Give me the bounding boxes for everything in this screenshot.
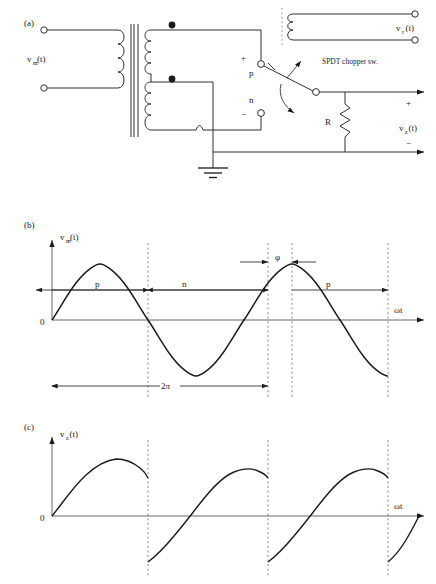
primary-source-label-suffix: (t) (37, 54, 46, 64)
reference-coil-label-sub: r (402, 29, 404, 35)
panel-b-waveform: (b) v m (t) ωt 0 p n p φ 2π (24, 220, 424, 398)
panel-b-phase-label: φ (275, 252, 280, 262)
reference-coil-winding (288, 14, 293, 40)
panel-b-tag: (b) (24, 220, 35, 230)
polarity-dot-upper (169, 22, 176, 29)
primary-source-label-base: v (27, 54, 32, 64)
panel-c-y-label-base: v (60, 429, 65, 439)
figure-canvas: (a) v m (t) (0, 0, 436, 584)
minus-sign-n: − (241, 109, 246, 119)
panel-b-y-label-suffix: (t) (70, 232, 79, 242)
primary-terminal-bottom (41, 85, 47, 91)
plus-sign-p: + (241, 53, 246, 63)
panel-c-segment-1 (52, 459, 148, 516)
primary-terminal-top (41, 27, 47, 33)
ground-icon (198, 168, 228, 178)
output-label-base: v (399, 123, 404, 133)
transformer-core (131, 24, 138, 137)
panel-c-tag: (c) (24, 422, 34, 432)
output-minus-sign: − (406, 138, 411, 148)
panel-b-x-label: ωt (394, 305, 403, 315)
secondary-upper-winding (145, 30, 151, 74)
panel-a-circuit: (a) v m (t) (24, 8, 424, 178)
panel-c-segment-3 (268, 469, 388, 562)
switch-pivot-node (313, 89, 320, 96)
panel-c-segment-2 (148, 469, 268, 562)
switch-motion-arrow-up (287, 61, 301, 78)
resistor-label: R (325, 117, 331, 127)
panel-b-segment-label-p1: p (95, 279, 100, 289)
reference-coil-label-base: v (396, 23, 401, 33)
reference-coil-label-suffix: (t) (406, 23, 415, 33)
panel-c-waveform: (c) v z (t) ωt 0 (24, 422, 424, 578)
secondary-centre-tap-wire (151, 82, 213, 137)
panel-b-origin-label: 0 (40, 317, 45, 327)
output-label-suffix: (t) (409, 123, 418, 133)
panel-b-segment-label-p2: p (326, 279, 331, 289)
panel-c-x-label: ωt (394, 501, 403, 511)
terminal-n-node (258, 110, 265, 117)
resistor-zigzag (340, 104, 350, 152)
panel-b-y-label-base: v (60, 232, 65, 242)
secondary-lower-wire-b (203, 110, 261, 130)
output-plus-sign: + (406, 98, 411, 108)
wire-hop (196, 126, 203, 131)
terminal-p-label: p (249, 68, 254, 78)
secondary-lower-winding (145, 82, 151, 130)
primary-winding-coil (118, 30, 124, 88)
panel-c-origin-label: 0 (40, 513, 45, 523)
polarity-dot-lower (169, 76, 176, 83)
panel-c-y-label-suffix: (t) (70, 429, 79, 439)
terminal-p-node (258, 61, 265, 68)
panel-b-segment-label-n: n (182, 279, 187, 289)
switch-blade[interactable] (264, 66, 313, 91)
panel-c-segment-4 (388, 514, 420, 562)
spdt-switch-label: SPDT chopper sw. (322, 57, 378, 66)
reference-terminal-bottom (412, 37, 418, 43)
terminal-n-label: n (249, 95, 254, 105)
switch-motion-arc-down (280, 84, 294, 113)
panel-b-period-label: 2π (161, 381, 171, 391)
figure-root: (a) v m (t) (0, 0, 436, 584)
spdt-switch[interactable] (264, 61, 313, 113)
reference-terminal-top (412, 11, 418, 17)
panel-a-tag: (a) (24, 18, 34, 28)
